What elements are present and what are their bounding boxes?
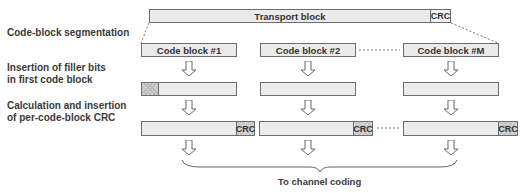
down-arrow-icon (181, 140, 197, 156)
brace (182, 160, 457, 172)
crc-code-block-m (403, 121, 499, 136)
down-arrow-icon (181, 100, 197, 116)
down-arrow-icon (443, 140, 459, 156)
down-arrow-icon (443, 61, 459, 77)
down-arrow-icon (300, 100, 316, 116)
connector-lines (0, 0, 525, 193)
code-block-2-label: Code block #2 (261, 44, 355, 56)
filler-bits (142, 83, 159, 95)
crc-block-2: CRC (353, 121, 373, 136)
crc-block-m: CRC (498, 121, 518, 136)
filled-code-block-2 (260, 82, 356, 96)
crc-code-block-1 (141, 121, 237, 136)
code-block-m: Code block #M (403, 43, 499, 57)
code-block-1-label: Code block #1 (142, 44, 236, 56)
code-block-2: Code block #2 (260, 43, 356, 57)
down-arrow-icon (300, 61, 316, 77)
down-arrow-icon (181, 61, 197, 77)
down-arrow-icon (300, 140, 316, 156)
output-label: To channel coding (278, 176, 361, 187)
code-block-1: Code block #1 (141, 43, 237, 57)
crc-block-1: CRC (236, 121, 255, 136)
crc-code-block-2 (259, 121, 354, 136)
down-arrow-icon (443, 100, 459, 116)
code-block-m-label: Code block #M (404, 44, 498, 56)
filled-code-block-m (403, 82, 499, 96)
filled-code-block-1 (141, 82, 237, 96)
